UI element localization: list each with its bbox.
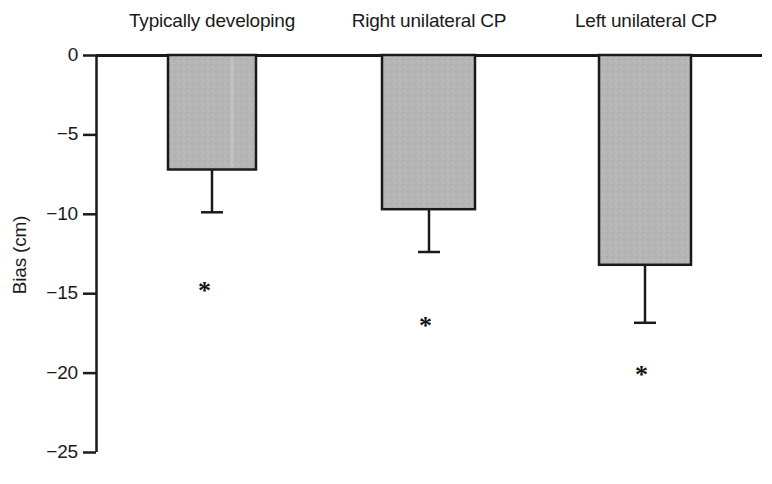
group-label-typically-developing: Typically developing xyxy=(118,10,306,32)
y-tick-label-minus-5: −5 xyxy=(20,123,78,145)
significance-star-left-unilateral-cp: * xyxy=(635,362,648,388)
y-tick-label-minus-20: −20 xyxy=(20,362,78,384)
group-label-right-unilateral-cp: Right unilateral CP xyxy=(335,10,523,32)
significance-star-typically-developing: * xyxy=(198,278,211,304)
chart-text-layer: Typically developing Right unilateral CP… xyxy=(0,0,772,484)
y-tick-label-minus-25: −25 xyxy=(20,441,78,463)
bar-chart-figure: Typically developing Right unilateral CP… xyxy=(0,0,772,484)
y-axis-title: Bias (cm) xyxy=(9,195,31,315)
group-label-left-unilateral-cp: Left unilateral CP xyxy=(556,10,736,32)
significance-star-right-unilateral-cp: * xyxy=(419,313,432,339)
y-tick-label-0: 0 xyxy=(20,44,78,66)
